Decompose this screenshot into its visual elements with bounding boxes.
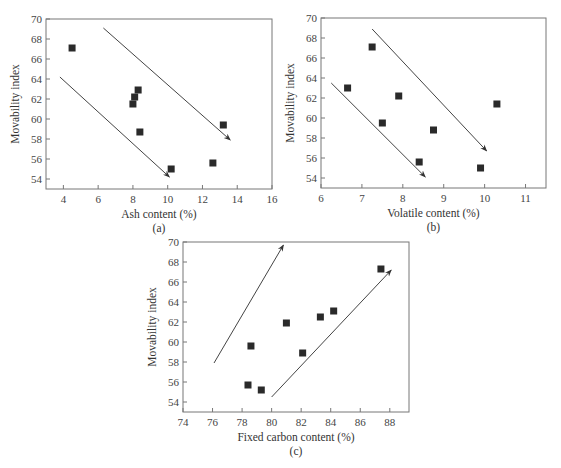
x-tick-label: 16 xyxy=(267,193,279,205)
y-tick-label: 58 xyxy=(168,356,180,368)
trend-arrow xyxy=(60,77,170,177)
y-axis-label: Movability index xyxy=(146,287,159,367)
data-point-marker xyxy=(317,314,324,321)
y-tick-label: 54 xyxy=(306,172,318,184)
y-tick-label: 60 xyxy=(31,113,43,125)
x-tick-label: 80 xyxy=(266,416,278,428)
x-tick-label: 8 xyxy=(400,192,406,204)
data-point-marker xyxy=(477,165,484,172)
data-point-marker xyxy=(220,122,227,129)
y-tick-label: 70 xyxy=(168,236,180,248)
y-tick-label: 58 xyxy=(306,132,318,144)
trend-arrow xyxy=(103,28,230,140)
data-point-marker xyxy=(299,350,306,357)
data-point-marker xyxy=(369,44,376,51)
data-point-marker xyxy=(247,343,254,350)
x-tick-label: 86 xyxy=(355,416,367,428)
y-tick-label: 54 xyxy=(168,396,180,408)
y-tick-label: 62 xyxy=(306,92,317,104)
data-point-marker xyxy=(209,160,216,167)
x-axis-label: Ash content (%) xyxy=(121,208,197,221)
subfigure-label: (c) xyxy=(290,445,303,458)
plot-area xyxy=(46,19,272,189)
data-point-marker xyxy=(135,87,142,94)
y-tick-label: 70 xyxy=(31,13,43,25)
chart-volatile-content: 67891011545658606264666870Volatile conte… xyxy=(284,12,546,234)
data-point-marker xyxy=(344,85,351,92)
x-tick-label: 6 xyxy=(95,193,101,205)
x-tick-label: 76 xyxy=(207,416,219,428)
data-point-marker xyxy=(377,266,384,273)
x-tick-label: 4 xyxy=(61,193,67,205)
data-point-marker xyxy=(416,159,423,166)
data-point-marker xyxy=(69,45,76,52)
data-point-marker xyxy=(131,94,138,101)
y-tick-label: 66 xyxy=(306,52,318,64)
x-tick-label: 6 xyxy=(318,192,324,204)
y-tick-label: 62 xyxy=(168,316,179,328)
data-point-marker xyxy=(283,320,290,327)
x-tick-label: 82 xyxy=(296,416,307,428)
y-tick-label: 54 xyxy=(31,173,43,185)
y-tick-label: 64 xyxy=(306,72,318,84)
figure-canvas: 46810121416545658606264666870Ash content… xyxy=(0,0,561,468)
plot-area xyxy=(183,242,409,412)
x-tick-label: 74 xyxy=(178,416,190,428)
y-tick-label: 56 xyxy=(31,153,43,165)
x-tick-label: 10 xyxy=(162,193,174,205)
y-tick-label: 68 xyxy=(306,32,318,44)
y-tick-label: 66 xyxy=(168,276,180,288)
data-point-marker xyxy=(258,387,265,394)
data-point-marker xyxy=(129,101,136,108)
y-tick-label: 68 xyxy=(31,33,43,45)
plot-area xyxy=(321,18,546,188)
y-tick-label: 56 xyxy=(306,152,318,164)
trend-arrow xyxy=(372,29,487,151)
data-point-marker xyxy=(493,101,500,108)
chart-fixed-carbon-content: 7476788082848688545658606264666870Fixed … xyxy=(146,236,409,458)
data-point-marker xyxy=(430,127,437,134)
y-tick-label: 60 xyxy=(306,112,318,124)
y-tick-label: 64 xyxy=(168,296,180,308)
y-tick-label: 60 xyxy=(168,336,180,348)
y-tick-label: 70 xyxy=(306,12,318,24)
x-tick-label: 7 xyxy=(359,192,365,204)
x-axis-label: Volatile content (%) xyxy=(387,207,480,220)
y-axis-label: Movability index xyxy=(9,64,22,144)
y-tick-label: 68 xyxy=(168,256,180,268)
trend-arrow xyxy=(331,83,425,177)
y-tick-label: 62 xyxy=(31,93,42,105)
x-tick-label: 10 xyxy=(479,192,491,204)
x-tick-label: 9 xyxy=(441,192,447,204)
x-tick-label: 84 xyxy=(325,416,337,428)
x-tick-label: 14 xyxy=(232,193,244,205)
data-point-marker xyxy=(136,129,143,136)
y-axis-label: Movability index xyxy=(284,63,297,143)
chart-ash-content: 46810121416545658606264666870Ash content… xyxy=(9,13,278,235)
y-tick-label: 64 xyxy=(31,73,43,85)
data-point-marker xyxy=(168,166,175,173)
x-tick-label: 11 xyxy=(520,192,531,204)
data-point-marker xyxy=(395,93,402,100)
x-tick-label: 12 xyxy=(197,193,208,205)
x-tick-label: 88 xyxy=(384,416,396,428)
x-tick-label: 8 xyxy=(130,193,136,205)
x-tick-label: 78 xyxy=(237,416,249,428)
trend-arrow xyxy=(272,270,392,397)
y-tick-label: 58 xyxy=(31,133,43,145)
x-axis-label: Fixed carbon content (%) xyxy=(237,431,354,444)
data-point-marker xyxy=(379,120,386,127)
y-tick-label: 56 xyxy=(168,376,180,388)
subfigure-label: (a) xyxy=(153,222,166,235)
y-tick-label: 66 xyxy=(31,53,43,65)
data-point-marker xyxy=(244,382,251,389)
data-point-marker xyxy=(330,308,337,315)
subfigure-label: (b) xyxy=(427,221,441,234)
